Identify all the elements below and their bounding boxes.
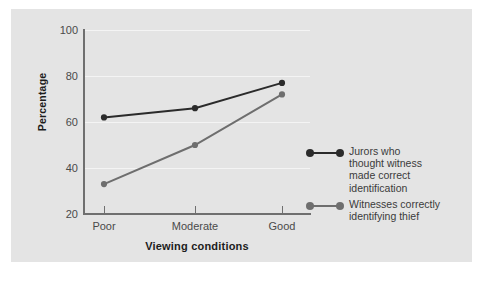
chart-figure: 100 80 60 40 20 Poor Moderate Good Perce… (0, 0, 485, 281)
legend-item-jurors[interactable]: Jurors who thought witness made correct … (306, 145, 478, 194)
data-point (279, 91, 285, 97)
data-point (192, 142, 198, 148)
legend-label-witnesses: Witnesses correctly identifying thief (349, 198, 440, 222)
data-point (192, 105, 198, 111)
legend-label-jurors: Jurors who thought witness made correct … (349, 145, 422, 194)
chart-legend: Jurors who thought witness made correct … (306, 145, 478, 226)
legend-marker-jurors-icon (306, 146, 344, 160)
data-point (101, 181, 107, 187)
legend-marker-witnesses-icon (306, 199, 344, 213)
series-layer (0, 0, 485, 281)
data-point (279, 80, 285, 86)
series-line-jurors (104, 83, 282, 118)
data-point (101, 114, 107, 120)
legend-item-witnesses[interactable]: Witnesses correctly identifying thief (306, 198, 478, 222)
